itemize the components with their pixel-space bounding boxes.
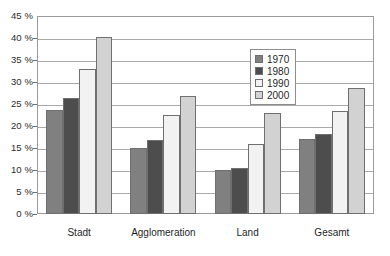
bar-group — [206, 16, 290, 214]
legend-item-2000: 2000 — [255, 89, 289, 101]
bar-group — [37, 16, 121, 214]
bar — [147, 140, 164, 214]
legend-swatch-icon — [255, 55, 263, 63]
legend-label: 1970 — [267, 54, 289, 65]
y-tick-label: 20 % — [0, 121, 33, 131]
bar — [348, 88, 365, 214]
legend-label: 1980 — [267, 66, 289, 77]
legend-label: 1990 — [267, 78, 289, 89]
y-tick-label: 0 % — [0, 209, 33, 219]
legend-item-1970: 1970 — [255, 53, 289, 65]
legend-swatch-icon — [255, 67, 263, 75]
legend-swatch-icon — [255, 91, 263, 99]
x-tick-label-gesamt: Gesamt — [290, 227, 374, 239]
y-tick-label: 5 % — [0, 187, 33, 197]
x-tick-label-land: Land — [206, 227, 290, 239]
bar — [231, 168, 248, 214]
y-tick-label: 30 % — [0, 77, 33, 87]
y-tick-label: 15 % — [0, 143, 33, 153]
y-tick-label: 10 % — [0, 165, 33, 175]
bar — [46, 110, 63, 214]
y-tick-label: 35 % — [0, 55, 33, 65]
bars-layer — [37, 16, 374, 214]
legend-item-1990: 1990 — [255, 77, 289, 89]
legend-item-1980: 1980 — [255, 65, 289, 77]
bar-group — [121, 16, 205, 214]
bar — [63, 98, 80, 214]
bar — [299, 139, 316, 214]
bar — [163, 115, 180, 214]
x-tick-label-stadt: Stadt — [37, 227, 121, 239]
x-tick-label-agglomeration: Agglomeration — [121, 227, 205, 239]
y-tick-label: 25 % — [0, 99, 33, 109]
bar — [315, 134, 332, 214]
y-axis: 0 %5 %10 %15 %20 %25 %30 %35 %40 %45 % — [0, 0, 33, 256]
legend-swatch-icon — [255, 79, 263, 87]
bar — [215, 170, 232, 214]
bar-group — [290, 16, 374, 214]
bar — [79, 69, 96, 214]
x-axis: StadtAgglomerationLandGesamt — [37, 218, 374, 242]
bar — [180, 96, 197, 214]
bar — [248, 144, 265, 214]
bar-chart: 0 %5 %10 %15 %20 %25 %30 %35 %40 %45 % S… — [0, 0, 390, 256]
y-tick-label: 45 % — [0, 11, 33, 21]
bar — [332, 111, 349, 214]
chart-legend: 1970198019902000 — [250, 49, 296, 105]
y-tick-mark — [33, 214, 37, 215]
bar — [96, 37, 113, 214]
y-tick-label: 40 % — [0, 33, 33, 43]
bar — [264, 113, 281, 214]
bar — [130, 148, 147, 214]
legend-label: 2000 — [267, 90, 289, 101]
